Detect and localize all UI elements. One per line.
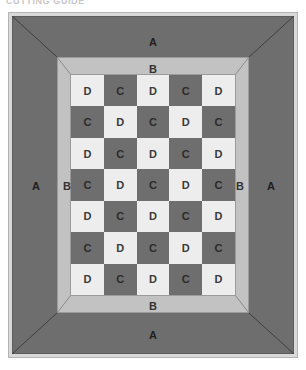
grid-cell: D xyxy=(137,138,170,169)
grid-cell: D xyxy=(137,75,170,106)
grid-cell: C xyxy=(137,169,170,200)
grid-cell: C xyxy=(169,138,202,169)
grid-cell: D xyxy=(104,169,137,200)
grid-cell: D xyxy=(104,106,137,137)
grid-cell: D xyxy=(137,264,170,295)
label-border-a-left: A xyxy=(29,181,43,192)
label-border-a-right: A xyxy=(264,181,278,192)
label-border-b-right: B xyxy=(233,181,247,192)
label-border-a-top: A xyxy=(0,37,306,48)
grid-cell: C xyxy=(137,106,170,137)
grid-cell: D xyxy=(169,169,202,200)
grid-cell: D xyxy=(169,232,202,263)
grid-cell: C xyxy=(104,201,137,232)
grid-cell: C xyxy=(202,232,235,263)
label-border-b-top: B xyxy=(0,64,306,75)
grid-cell: C xyxy=(169,264,202,295)
grid-cell: D xyxy=(71,75,104,106)
grid-cell: C xyxy=(104,264,137,295)
grid-cell: D xyxy=(202,138,235,169)
label-border-b-left: B xyxy=(60,181,74,192)
label-border-b-bottom: B xyxy=(0,301,306,312)
grid-cell: D xyxy=(202,201,235,232)
grid-cell: C xyxy=(169,201,202,232)
grid-cell: C xyxy=(137,232,170,263)
diagram-canvas: CUTTING GUIDE DCDCDCDCDCDCDCDCDCDCDCDCDC… xyxy=(0,0,306,370)
grid-cell: C xyxy=(202,106,235,137)
grid-cell: D xyxy=(71,138,104,169)
grid-cell: D xyxy=(202,75,235,106)
caption-text: CUTTING GUIDE xyxy=(6,0,186,6)
checkerboard-grid: DCDCDCDCDCDCDCDCDCDCDCDCDCDCDCDCDCD xyxy=(71,75,235,295)
grid-cell: C xyxy=(169,75,202,106)
grid-cell: D xyxy=(137,201,170,232)
grid-cell: D xyxy=(71,201,104,232)
grid-cell: C xyxy=(104,138,137,169)
grid-cell: D xyxy=(71,264,104,295)
label-border-a-bottom: A xyxy=(0,330,306,341)
grid-cell: D xyxy=(104,232,137,263)
grid-cell: C xyxy=(71,169,104,200)
grid-cell: D xyxy=(202,264,235,295)
grid-cell: C xyxy=(104,75,137,106)
grid-cell: C xyxy=(71,106,104,137)
grid-cell: C xyxy=(71,232,104,263)
grid-cell: D xyxy=(169,106,202,137)
grid-cell: C xyxy=(202,169,235,200)
